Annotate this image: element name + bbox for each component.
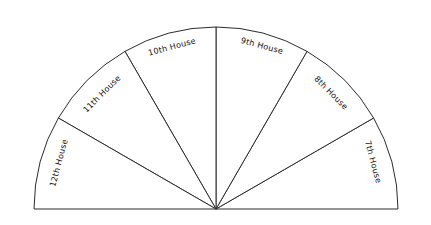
house-chart-svg: 7th House8th House9th House10th House11t…	[0, 0, 431, 225]
house-chart-diagram: 7th House8th House9th House10th House11t…	[0, 0, 431, 225]
sectors-group	[34, 27, 398, 209]
